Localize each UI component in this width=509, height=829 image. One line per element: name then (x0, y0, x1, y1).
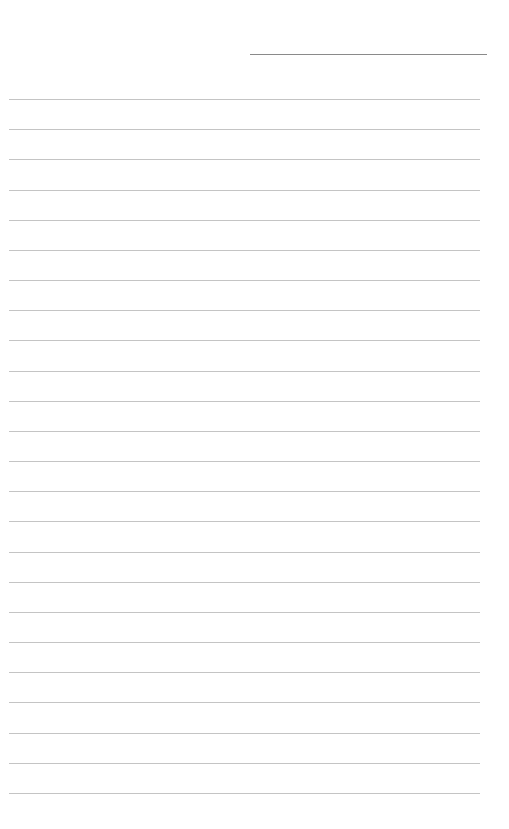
ruled-line (9, 521, 480, 522)
ruled-line (9, 190, 480, 191)
ruled-line (9, 733, 480, 734)
ruled-line (9, 672, 480, 673)
ruled-line (9, 280, 480, 281)
ruled-line (9, 552, 480, 553)
ruled-line (9, 763, 480, 764)
ruled-line (9, 310, 480, 311)
ruled-line (9, 401, 480, 402)
ruled-line (9, 612, 480, 613)
ruled-line (9, 461, 480, 462)
header-line (250, 54, 487, 55)
ruled-line (9, 793, 480, 794)
lined-page (0, 0, 509, 829)
ruled-line (9, 431, 480, 432)
ruled-line (9, 491, 480, 492)
ruled-line (9, 582, 480, 583)
ruled-line (9, 129, 480, 130)
ruled-line (9, 99, 480, 100)
ruled-line (9, 371, 480, 372)
ruled-line (9, 250, 480, 251)
ruled-line (9, 340, 480, 341)
ruled-line (9, 159, 480, 160)
ruled-line (9, 642, 480, 643)
ruled-line (9, 702, 480, 703)
ruled-line (9, 220, 480, 221)
